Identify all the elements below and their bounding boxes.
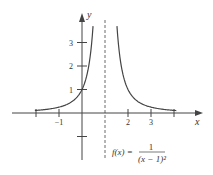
y-tick-label: 3 [69, 39, 73, 48]
curve-left-branch [35, 26, 93, 110]
plot-area: xy−123123f(x) =1(x − 1)² [0, 0, 213, 175]
x-axis-label: x [194, 116, 200, 127]
x-tick-label: 2 [126, 118, 130, 127]
x-tick-label: −1 [55, 118, 64, 127]
y-tick-label: 1 [69, 86, 73, 95]
y-tick-label: 2 [69, 62, 73, 71]
function-label-lhs: f(x) = [112, 147, 133, 157]
chart: xy−123123f(x) =1(x − 1)² [0, 0, 213, 175]
y-axis-label: y [86, 9, 92, 20]
function-denominator: (x − 1)² [138, 154, 166, 164]
function-numerator: 1 [149, 142, 154, 152]
x-tick-label: 3 [149, 118, 153, 127]
curve-right-branch [117, 26, 176, 110]
y-axis-arrow-icon [79, 13, 85, 22]
